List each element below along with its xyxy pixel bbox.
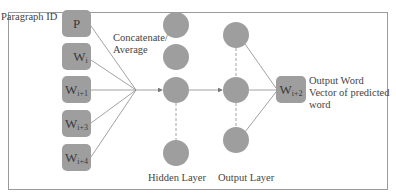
output-node-2 — [223, 77, 249, 103]
hidden-node-3 — [163, 77, 189, 103]
input-box-paragraph: P — [62, 10, 91, 37]
output-layer-label: Output Layer — [218, 172, 274, 184]
output-box-wi2: Wi+2 — [276, 76, 306, 103]
concat-label-line2: Average — [113, 44, 148, 56]
output-desc-line3: word — [309, 99, 331, 111]
input-subscript: i+4 — [77, 157, 88, 166]
input-label: P — [73, 16, 80, 32]
input-subscript: i+3 — [77, 123, 88, 132]
output-desc-line2: Vector of predicted — [309, 87, 389, 99]
hidden-node-1 — [163, 12, 189, 38]
hidden-node-2 — [163, 44, 189, 70]
input-label: W — [73, 49, 85, 64]
input-label: W — [65, 150, 77, 165]
input-box-wi3: Wi+3 — [62, 110, 91, 137]
output-node-3 — [223, 127, 249, 153]
input-label: W — [65, 82, 77, 97]
input-subscript: i+1 — [77, 89, 88, 98]
paragraph-id-label: Paragraph ID — [1, 11, 57, 23]
hidden-node-4 — [163, 140, 189, 166]
input-box-wi1: Wi+1 — [62, 76, 91, 103]
output-node-1 — [223, 22, 249, 48]
input-subscript: i — [86, 56, 88, 65]
input-box-wi: Wi — [62, 43, 91, 70]
output-subscript: i+2 — [292, 89, 303, 98]
concat-label-line1: Concatenate/ — [113, 32, 168, 44]
input-label: W — [65, 116, 77, 131]
hidden-layer-label: Hidden Layer — [148, 172, 206, 184]
output-desc-line1: Output Word — [309, 75, 364, 87]
output-label: W — [279, 82, 291, 97]
input-box-wi4: Wi+4 — [62, 144, 91, 171]
